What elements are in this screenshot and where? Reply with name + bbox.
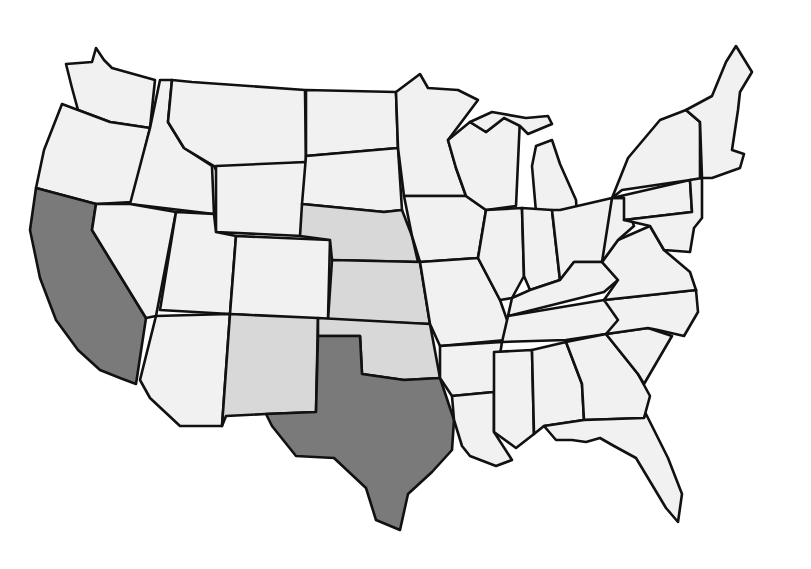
state-north-dakota: North Dakota — [306, 90, 398, 156]
state-kansas: Kansas — [328, 260, 430, 324]
state-new-mexico: New Mexico — [222, 314, 318, 426]
us-map: WashingtonOregonCaliforniaIdahoNevadaMon… — [0, 0, 811, 569]
state-arizona: Arizona — [140, 314, 230, 426]
state-mississippi: Mississippi — [494, 350, 534, 448]
states-layer: WashingtonOregonCaliforniaIdahoNevadaMon… — [30, 46, 752, 530]
state-florida: Florida — [544, 414, 682, 522]
state-colorado: Colorado — [230, 236, 330, 320]
state-wyoming: Wyoming — [216, 162, 306, 236]
state-iowa: Iowa — [404, 196, 486, 262]
state-south-dakota: South Dakota — [302, 148, 402, 212]
